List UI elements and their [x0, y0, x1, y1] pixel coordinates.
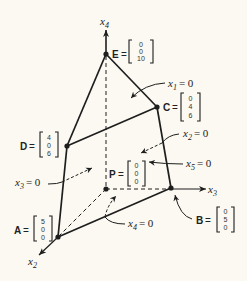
vertex-A	[55, 234, 60, 239]
vector-entry: 0	[139, 41, 143, 48]
edge-E-C	[106, 54, 157, 107]
edge-A-B	[58, 188, 171, 237]
vector-entry: 0	[135, 170, 139, 177]
vector-entry: 6	[189, 112, 193, 119]
leader-line	[162, 134, 179, 143]
label-B: B = 0 5 0	[196, 207, 234, 232]
equals-sign: =	[205, 215, 211, 226]
vertex-B-pointer	[175, 195, 192, 219]
constraint-label: x3= 0	[14, 176, 41, 191]
vector-entry: 4	[47, 134, 51, 141]
point-name: C	[163, 102, 170, 113]
polytope-diagram: x4 x3 x2 E = 0 0 10 C = 0 4 6 D = 4 0 6 …	[0, 0, 247, 281]
x3-axis-label: x3	[207, 183, 217, 198]
equals-sign: =	[118, 169, 124, 180]
vector-entry: 0	[224, 224, 228, 231]
constraint-label: x2= 0	[182, 127, 209, 142]
vector-entry: 0	[41, 234, 45, 241]
point-name: P	[109, 169, 116, 180]
vector-entry: 0	[139, 48, 143, 55]
constraint-x1: x1= 0	[131, 77, 194, 98]
equals-sign: =	[172, 102, 178, 113]
leader-arrow-dashed	[62, 168, 92, 182]
vector-entry: 0	[189, 95, 193, 102]
vector-entry: 4	[189, 103, 193, 110]
leader-arrow-dashed	[141, 143, 162, 153]
constraint-label: x4= 0	[127, 217, 154, 232]
hidden-edges	[58, 56, 171, 237]
vector-entry: 10	[137, 55, 145, 62]
label-A: A = 5 0 0	[14, 216, 52, 241]
edge-P-A	[58, 189, 106, 237]
point-name: E	[112, 49, 119, 60]
vertex-B	[168, 185, 173, 190]
leader-line	[48, 182, 62, 184]
vector-entry: 0	[41, 226, 45, 233]
vector-entry: 0	[135, 178, 139, 185]
edge-D-A	[58, 146, 67, 237]
constraint-x3: x3= 0	[14, 168, 92, 191]
constraint-label: x1= 0	[167, 77, 194, 92]
edge-C-B	[157, 107, 171, 188]
x2-axis-label: x2	[27, 255, 37, 270]
vertex-P	[103, 186, 108, 191]
axes	[39, 30, 206, 255]
point-name: A	[14, 225, 21, 236]
vector-entry: 5	[41, 218, 45, 225]
equals-sign: =	[23, 225, 29, 236]
label-D: D = 4 0 6	[20, 132, 58, 157]
equals-sign: =	[121, 49, 127, 60]
visible-edges	[58, 54, 171, 237]
vector-entry: 0	[224, 208, 228, 215]
point-name: B	[196, 215, 203, 226]
point-name: D	[20, 141, 27, 152]
label-E: E = 0 0 10	[112, 40, 153, 63]
constraint-x2: x2= 0	[141, 127, 209, 153]
vector-entry: 5	[224, 216, 228, 223]
vertex-C	[154, 104, 159, 109]
constraint-label: x5= 0	[185, 157, 212, 172]
equals-sign: =	[29, 141, 35, 152]
vector-entry: 6	[47, 150, 51, 157]
constraint-x5: x5= 0	[149, 157, 212, 172]
vertex-D	[64, 143, 69, 148]
leader-line	[105, 217, 125, 224]
vector-entry: 0	[47, 142, 51, 149]
x4-axis-label: x4	[99, 15, 109, 30]
vector-entry: 0	[135, 162, 139, 169]
vertex-E	[103, 51, 108, 56]
label-C: C = 0 4 6	[163, 93, 200, 121]
label-P: P = 0 0 0	[109, 161, 145, 186]
